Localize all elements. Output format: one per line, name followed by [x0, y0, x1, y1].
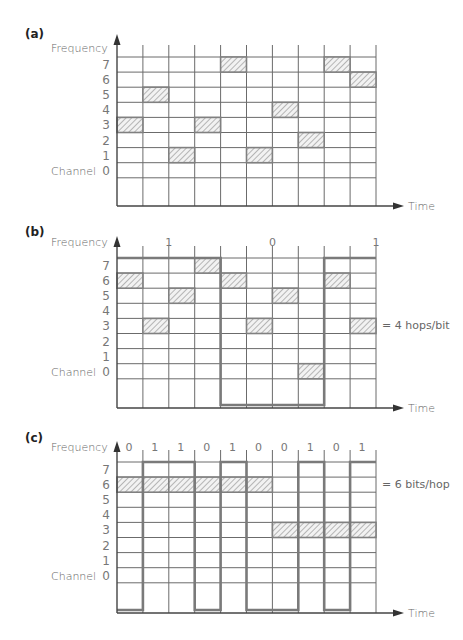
- hop-cell: [143, 318, 169, 333]
- channel-number-label: 7: [102, 259, 110, 273]
- channel-number-label: 3: [102, 319, 110, 333]
- hop-cell: [298, 133, 324, 148]
- panel-b: (b)FrequencyChannelTime76543210101= 4 ho…: [25, 225, 450, 415]
- hop-cell: [143, 477, 169, 492]
- hop-cell: [324, 522, 350, 537]
- hop-cell: [247, 477, 273, 492]
- frequency-hopping-diagram: (a)FrequencyChannelTime76543210 (b)Frequ…: [0, 0, 463, 640]
- hop-cell: [272, 102, 298, 117]
- time-arrow-icon: [393, 203, 404, 210]
- frequency-arrow-icon: [114, 441, 121, 452]
- channel-number-label: 2: [102, 335, 110, 349]
- time-arrow-icon: [393, 610, 404, 617]
- hop-cell: [169, 477, 195, 492]
- time-arrow-icon: [393, 405, 404, 412]
- bit-label: 1: [165, 236, 172, 249]
- panel-c: (c)FrequencyChannelTime76543210011010010…: [25, 431, 450, 620]
- panel-label: (b): [25, 225, 45, 239]
- rate-note: = 4 hops/bit: [382, 319, 450, 332]
- diagram-canvas: (a)FrequencyChannelTime76543210 (b)Frequ…: [0, 0, 463, 640]
- bit-label: 1: [373, 236, 380, 249]
- frequency-axis-label: Frequency: [51, 441, 108, 454]
- bit-label: 0: [269, 236, 276, 249]
- hop-cell: [195, 117, 221, 132]
- hop-cell: [247, 148, 273, 163]
- hop-cell: [169, 288, 195, 303]
- panel-label: (c): [25, 431, 43, 445]
- channel-number-label: 3: [102, 118, 110, 132]
- channel-number-label: 7: [102, 58, 110, 72]
- channel-number-label: 6: [102, 73, 110, 87]
- channel-number-label: 5: [102, 289, 110, 303]
- frequency-axis-label: Frequency: [51, 236, 108, 249]
- hop-cell: [272, 288, 298, 303]
- bit-label: 0: [255, 441, 262, 454]
- hop-cell: [117, 477, 143, 492]
- bit-label: 1: [359, 441, 366, 454]
- hop-cell: [247, 318, 273, 333]
- hop-cell: [221, 57, 247, 72]
- channel-number-label: 7: [102, 463, 110, 477]
- hop-cell: [169, 148, 195, 163]
- channel-number-label: 4: [102, 103, 110, 117]
- hop-cell: [298, 364, 324, 379]
- frequency-axis-label: Frequency: [51, 42, 108, 55]
- hop-cell: [324, 273, 350, 288]
- channel-axis-label: Channel: [51, 165, 96, 178]
- channel-number-label: 6: [102, 478, 110, 492]
- hop-cell: [298, 522, 324, 537]
- channel-number-label: 2: [102, 134, 110, 148]
- channel-number-label: 4: [102, 508, 110, 522]
- hop-cell: [117, 273, 143, 288]
- channel-number-label: 2: [102, 539, 110, 553]
- channel-number-label: 0: [102, 365, 110, 379]
- bit-label: 0: [333, 441, 340, 454]
- channel-number-label: 0: [102, 164, 110, 178]
- channel-number-label: 1: [102, 554, 110, 568]
- hop-cell: [221, 477, 247, 492]
- hop-cell: [350, 72, 376, 87]
- hop-cell: [272, 522, 298, 537]
- panel-a: (a)FrequencyChannelTime76543210: [25, 27, 435, 213]
- bit-label: 1: [307, 441, 314, 454]
- hop-cell: [324, 57, 350, 72]
- bit-label: 0: [203, 441, 210, 454]
- channel-number-label: 1: [102, 149, 110, 163]
- hop-cell: [221, 273, 247, 288]
- channel-number-label: 5: [102, 88, 110, 102]
- bit-label: 0: [125, 441, 132, 454]
- channel-number-label: 5: [102, 493, 110, 507]
- time-axis-label: Time: [408, 402, 435, 415]
- hop-cell: [195, 258, 221, 273]
- rate-note: = 6 bits/hop: [382, 478, 450, 491]
- channel-number-label: 3: [102, 523, 110, 537]
- channel-number-label: 4: [102, 304, 110, 318]
- hop-cell: [350, 522, 376, 537]
- time-axis-label: Time: [408, 607, 435, 620]
- channel-axis-label: Channel: [51, 570, 96, 583]
- axes: [114, 34, 405, 210]
- frequency-arrow-icon: [114, 236, 121, 247]
- channel-number-label: 1: [102, 350, 110, 364]
- hop-cell: [117, 117, 143, 132]
- panel-label: (a): [25, 27, 44, 41]
- bit-label: 1: [177, 441, 184, 454]
- bit-label: 1: [229, 441, 236, 454]
- bit-label: 0: [281, 441, 288, 454]
- hop-cell: [143, 87, 169, 102]
- hop-cell: [195, 477, 221, 492]
- frequency-arrow-icon: [114, 34, 121, 45]
- channel-number-label: 6: [102, 274, 110, 288]
- bit-label: 1: [151, 441, 158, 454]
- hop-cell: [350, 318, 376, 333]
- channel-number-label: 0: [102, 569, 110, 583]
- time-axis-label: Time: [408, 200, 435, 213]
- channel-axis-label: Channel: [51, 366, 96, 379]
